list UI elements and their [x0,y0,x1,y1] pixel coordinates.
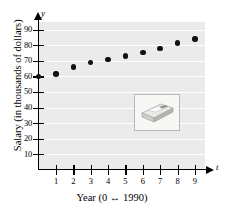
data-point [175,40,180,45]
gridline [39,123,205,124]
data-point [105,57,110,62]
y-axis-tick [33,92,44,93]
x-axis-tick-label: 4 [101,177,115,186]
data-point [53,71,58,76]
gridline [39,61,205,62]
x-axis-title: Year (0 ↔ 1990) [22,192,202,203]
x-axis-tick-label: 9 [188,177,202,186]
x-axis-tick-label: 3 [84,177,98,186]
gridline [39,139,205,140]
y-axis-tick-label: 40 [6,103,32,112]
gridline [39,76,205,77]
y-axis-tick-label: 60 [6,72,32,81]
x-axis-line [38,169,207,170]
data-point [71,64,76,69]
y-axis-tick-label: 70 [6,56,32,65]
x-axis-variable-label: t [216,163,219,172]
gridline [39,45,205,46]
x-axis-arrow-icon [206,166,214,174]
y-axis-tick-label: 50 [6,87,32,96]
gridline [39,154,205,155]
x-axis-tick-label: 5 [118,177,132,186]
x-axis-tick [178,165,179,175]
y-axis-tick [33,45,44,46]
x-axis-tick [73,165,74,175]
y-axis-tick [33,108,44,109]
y-axis-tick-label: 30 [6,119,32,128]
y-axis-tick [33,154,44,155]
gridline [39,92,205,93]
y-axis-tick [33,123,44,124]
x-axis-tick [195,165,196,175]
y-axis-tick [33,30,44,31]
x-axis-tick-label: 8 [171,177,185,186]
gridline [39,30,205,31]
y-axis-tick-label: 80 [6,41,32,50]
x-axis-tick [108,165,109,175]
data-point [123,53,128,58]
x-axis-tick [143,165,144,175]
y-axis-tick-label: 10 [6,150,32,159]
y-axis-tick-label: 90 [6,25,32,34]
y-axis-tick [33,61,44,62]
y-axis-tick-label: 20 [6,134,32,143]
data-point [140,50,145,55]
x-axis-tick [160,165,161,175]
x-axis-tick [125,165,126,175]
x-axis-tick-label: 1 [49,177,63,186]
y-axis-line [38,18,39,170]
salary-scatter-chart: y t Salary (in thousands of dollars) Yea… [0,0,226,214]
plot-area [39,22,205,170]
data-point [192,36,197,41]
x-axis-tick-label: 7 [153,177,167,186]
x-axis-tick [56,165,57,175]
y-axis-variable-label: y [41,9,45,18]
y-axis-tick [33,139,44,140]
x-axis-tick [91,165,92,175]
gridline [39,108,205,109]
stack-of-money-photo [134,94,180,131]
x-axis-tick-label: 2 [66,177,80,186]
data-point [157,46,162,51]
x-axis-tick-label: 6 [136,177,150,186]
